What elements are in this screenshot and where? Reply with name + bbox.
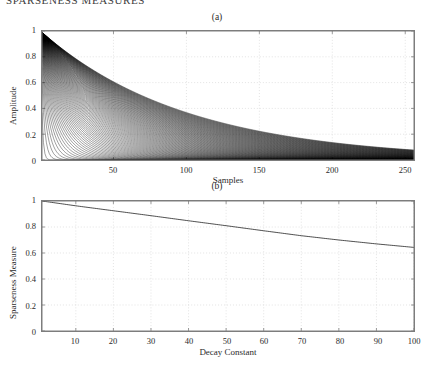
- panel-b-caption: (b): [0, 181, 434, 191]
- plot-a-xtick-50: 50: [109, 165, 118, 175]
- plot-b-xtick-80: 80: [336, 336, 345, 346]
- plot-b-ytick-0.8: 0.8: [8, 221, 36, 231]
- plot-b-xtick-30: 30: [147, 336, 156, 346]
- plot-a-ytick-0: 0: [8, 156, 36, 166]
- panel-a-caption: (a): [0, 12, 434, 22]
- plot-a-canvas: [42, 31, 414, 160]
- plot-a-xtick-150: 150: [253, 165, 266, 175]
- plot-b-xtick-90: 90: [374, 336, 383, 346]
- plot-b-xtick-20: 20: [109, 336, 118, 346]
- plot-b-axes: [41, 200, 415, 332]
- plot-a-ylabel: Amplitude: [8, 87, 18, 126]
- plot-b-canvas: [42, 201, 414, 331]
- plot-a-ytick-0.2: 0.2: [8, 130, 36, 140]
- plot-a-xtick-200: 200: [326, 165, 339, 175]
- figure-panel-b: (b) 1 0.8 0.6 0.4 0.2 0 10 20 30 40 50 6…: [0, 181, 434, 367]
- plot-b-xtick-60: 60: [260, 336, 269, 346]
- plot-b-xtick-40: 40: [185, 336, 194, 346]
- running-head: SPARSENESS MEASURES: [6, 0, 145, 6]
- plot-b-xtick-10: 10: [71, 336, 80, 346]
- plot-b-xtick-70: 70: [298, 336, 307, 346]
- figure-panel-a: (a) 1 0.8 0.6 0.4 0.2 0 50 100 150 200 2…: [0, 12, 434, 184]
- plot-a-ytick-0.8: 0.8: [8, 51, 36, 61]
- plot-b-ylabel: Sparseness Measure: [8, 246, 18, 319]
- plot-a-axes: [41, 30, 415, 161]
- plot-a-xtick-100: 100: [180, 165, 193, 175]
- plot-b-xlabel: Decay Constant: [41, 347, 415, 357]
- plot-a-xtick-250: 250: [399, 165, 412, 175]
- plot-b-xtick-100: 100: [408, 336, 421, 346]
- plot-b-ytick-0: 0: [8, 327, 36, 337]
- plot-b-xtick-50: 50: [223, 336, 232, 346]
- plot-b-ytick-1: 1: [8, 195, 36, 205]
- plot-a-ytick-1: 1: [8, 25, 36, 35]
